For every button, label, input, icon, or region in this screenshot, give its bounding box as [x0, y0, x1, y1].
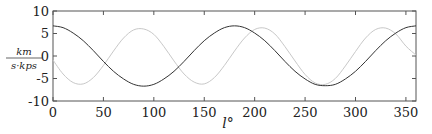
- y-tick-label: 0: [41, 49, 49, 64]
- dark-curve: [53, 26, 416, 86]
- x-tick-label: 50: [95, 105, 112, 120]
- x-tick-label: 350: [394, 105, 419, 120]
- axis-ticks: [53, 11, 416, 101]
- y-tick-label: -5: [36, 71, 49, 86]
- x-axis-label: l°: [222, 115, 233, 131]
- plot-frame: [53, 11, 416, 101]
- light-curve: [53, 28, 416, 85]
- y-label-numerator: km: [16, 46, 32, 57]
- y-axis-label: km s·kps: [6, 46, 42, 71]
- x-tick-label: 150: [192, 105, 217, 120]
- x-tick-label: 100: [141, 105, 166, 120]
- x-tick-label: 300: [343, 105, 368, 120]
- x-tick-label: 200: [242, 105, 267, 120]
- y-tick-label: 5: [41, 26, 49, 41]
- y-tick-label: 10: [32, 4, 49, 19]
- x-tick-label: 0: [49, 105, 57, 120]
- line-chart: 050100150200250300350 1050-5-10 km s·kps…: [0, 0, 432, 134]
- x-tick-label: 250: [293, 105, 318, 120]
- y-label-denominator: s·kps: [11, 60, 37, 71]
- y-tick-label: -10: [28, 94, 49, 109]
